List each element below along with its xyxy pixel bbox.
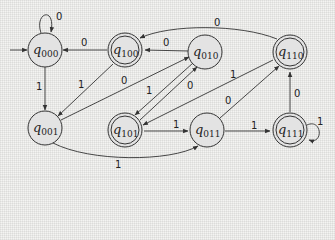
edge-q000-q000 [40,15,52,33]
label-q011-q111: 1 [251,120,257,131]
edge-q011-q110 [220,66,279,118]
label-q101-q011: 1 [173,119,179,130]
state-q011: q011 [190,113,224,147]
state-q001: q001 [28,111,62,145]
state-q111: q111 [273,113,307,147]
label-q111-q110: 0 [294,88,300,99]
transition-labels: 0 0 0 0 1 1 0 1 0 1 0 1 1 1 0 1 [36,11,323,170]
label-q101-q010: 0 [187,80,193,91]
label-q100-q000: 0 [81,37,87,48]
label-q001-q010: 0 [121,75,127,86]
label-q011-q110: 0 [225,95,231,106]
state-q010: q010 [188,35,222,69]
state-q110: q110 [273,35,307,69]
state-diagram: 0 0 0 0 1 1 0 1 0 1 0 1 1 1 0 1 q000 q10… [0,0,335,177]
edge-q010-q101 [135,63,193,115]
label-q001-q011: 1 [115,159,121,170]
state-q000: q000 [28,33,62,67]
label-q110-q101: 1 [230,69,236,80]
label-q111-q111: 1 [317,116,323,127]
state-q101: q101 [108,113,142,147]
label-q010-q101: 1 [146,85,152,96]
label-q000-q000: 0 [56,11,62,22]
label-q110-q100: 0 [214,17,220,28]
label-q100-q001: 1 [78,79,84,90]
label-q010-q100: 0 [163,37,169,48]
label-q000-q001: 1 [36,81,42,92]
edge-q010-q100 [145,50,188,51]
state-q100: q100 [108,33,142,67]
